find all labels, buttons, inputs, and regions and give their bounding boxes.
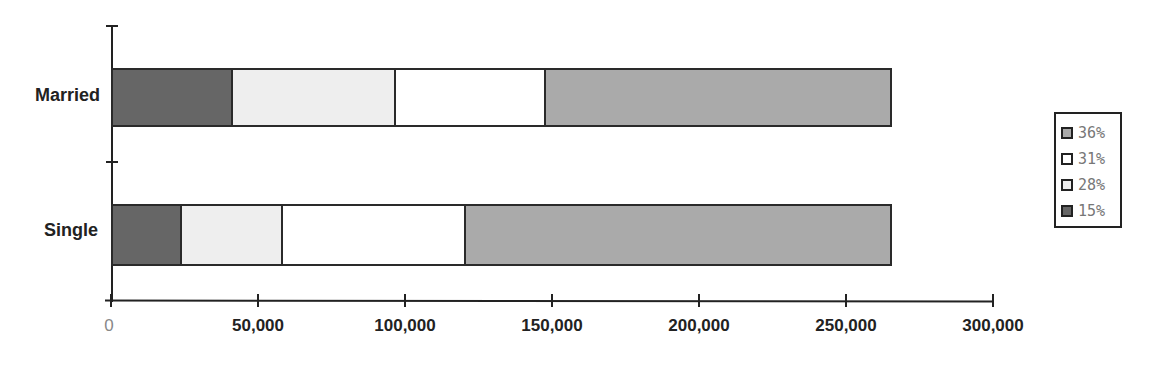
x-axis-tick bbox=[992, 294, 994, 307]
legend-item-31: 31% bbox=[1056, 146, 1120, 172]
category-label-married: Married bbox=[0, 85, 100, 106]
y-axis-tick bbox=[106, 161, 118, 163]
x-axis-label: 150,000 bbox=[521, 316, 582, 336]
bar-segment-28pct bbox=[231, 68, 396, 127]
x-axis-tick bbox=[698, 294, 700, 307]
bar-segment-28pct bbox=[180, 204, 282, 266]
bar-segment-36pct bbox=[544, 68, 892, 127]
bar-single bbox=[111, 204, 892, 266]
category-label-single: Single bbox=[0, 220, 98, 241]
x-axis-tick bbox=[257, 294, 259, 307]
x-axis-tick bbox=[110, 294, 112, 307]
legend-swatch-icon bbox=[1061, 179, 1073, 191]
bar-segment-36pct bbox=[464, 204, 892, 266]
legend-label: 15% bbox=[1078, 202, 1105, 220]
legend-swatch-icon bbox=[1061, 127, 1073, 139]
legend-label: 28% bbox=[1078, 176, 1105, 194]
legend-item-28: 28% bbox=[1056, 172, 1120, 198]
x-axis bbox=[105, 300, 994, 303]
legend-label: 31% bbox=[1078, 150, 1105, 168]
legend-item-36: 36% bbox=[1056, 120, 1120, 146]
x-axis-label: 250,000 bbox=[815, 316, 876, 336]
x-axis-label: 0 bbox=[104, 316, 113, 336]
bar-married bbox=[111, 68, 892, 127]
x-axis-label: 100,000 bbox=[374, 316, 435, 336]
bar-segment-31pct bbox=[394, 68, 546, 127]
y-axis-tick bbox=[106, 25, 118, 27]
legend-swatch-icon bbox=[1061, 205, 1073, 217]
x-axis-tick bbox=[845, 294, 847, 307]
x-axis-label: 300,000 bbox=[962, 316, 1023, 336]
x-axis-label: 200,000 bbox=[668, 316, 729, 336]
legend-label: 36% bbox=[1078, 124, 1105, 142]
x-axis-tick bbox=[404, 294, 406, 307]
bar-segment-15pct bbox=[111, 68, 233, 127]
x-axis-label: 50,000 bbox=[232, 316, 284, 336]
x-axis-tick bbox=[551, 294, 553, 307]
bar-segment-15pct bbox=[111, 204, 182, 266]
legend-swatch-icon bbox=[1061, 153, 1073, 165]
bar-segment-31pct bbox=[281, 204, 466, 266]
legend-item-15: 15% bbox=[1056, 198, 1120, 224]
legend: 36% 31% 28% 15% bbox=[1054, 112, 1122, 228]
